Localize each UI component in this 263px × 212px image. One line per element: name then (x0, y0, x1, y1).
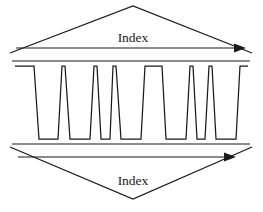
bottom-index-group: Index (10, 147, 252, 199)
pulse-waveform (15, 66, 248, 139)
signal-group (12, 61, 250, 144)
figure-canvas: Index Index (0, 0, 263, 212)
top-index-group: Index (10, 6, 252, 53)
top-index-label: Index (118, 30, 149, 45)
bottom-index-label: Index (118, 173, 149, 188)
top-index-arrow-head-icon (234, 44, 246, 53)
index-signal-figure: Index Index (0, 0, 263, 212)
bottom-index-arrow-head-icon (224, 153, 236, 162)
